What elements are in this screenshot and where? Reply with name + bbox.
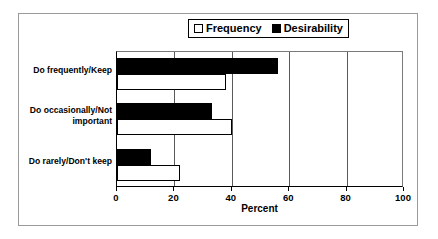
bar-group-do-frequently-keep — [117, 55, 402, 100]
bar-group-do-occasionally-not-important — [117, 100, 402, 145]
tick-label-40: 40 — [226, 192, 237, 203]
chart-figure: Frequency Desirability Do frequently/Kee… — [0, 0, 438, 239]
category-label-line: important — [8, 116, 112, 127]
bar-desirability-do-frequently-keep — [117, 58, 278, 74]
chart-legend: Frequency Desirability — [188, 19, 349, 38]
tick-label-60: 60 — [283, 192, 294, 203]
filled-square-icon — [272, 24, 281, 33]
legend-label-frequency: Frequency — [206, 23, 262, 34]
tick-mark-0 — [116, 187, 117, 191]
tick-label-0: 0 — [113, 192, 118, 203]
tick-label-20: 20 — [168, 192, 179, 203]
category-label-line: Do frequently/Keep — [8, 65, 112, 76]
tick-mark-20 — [173, 187, 174, 191]
tick-mark-100 — [403, 187, 404, 191]
plot-area — [116, 51, 403, 187]
category-label-do-occasionally-not-important: Do occasionally/Not important — [8, 105, 112, 126]
x-axis-title: Percent — [116, 203, 403, 214]
bar-desirability-do-rarely-dont-keep — [117, 149, 151, 165]
bar-desirability-do-occasionally-not-important — [117, 103, 212, 119]
tick-mark-80 — [346, 187, 347, 191]
bar-frequency-do-occasionally-not-important — [117, 119, 232, 135]
hollow-square-icon — [194, 24, 203, 33]
bar-frequency-do-frequently-keep — [117, 74, 226, 90]
legend-entry-frequency: Frequency — [194, 23, 262, 34]
bar-group-do-rarely-dont-keep — [117, 146, 402, 191]
tick-mark-40 — [231, 187, 232, 191]
legend-entry-desirability: Desirability — [272, 23, 343, 34]
tick-mark-60 — [288, 187, 289, 191]
bar-frequency-do-rarely-dont-keep — [117, 165, 180, 181]
category-label-line: Do occasionally/Not — [8, 105, 112, 116]
tick-label-80: 80 — [340, 192, 351, 203]
category-label-do-frequently-keep: Do frequently/Keep — [8, 65, 112, 76]
category-label-line: Do rarely/Don't keep — [8, 156, 112, 167]
category-label-do-rarely-dont-keep: Do rarely/Don't keep — [8, 156, 112, 167]
tick-label-100: 100 — [395, 192, 411, 203]
legend-label-desirability: Desirability — [284, 23, 343, 34]
